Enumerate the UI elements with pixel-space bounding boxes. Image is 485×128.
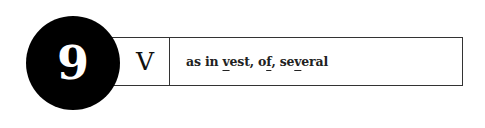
example-text: as in vest , of , several — [186, 38, 328, 85]
number-badge: 9 — [26, 16, 120, 110]
example-word-vest: vest — [222, 54, 249, 69]
example-word-several: several — [280, 54, 328, 69]
separator: , — [271, 54, 279, 69]
phonics-row: V as in vest , of , several — [100, 37, 463, 86]
letter-cell: V — [121, 38, 170, 85]
letter: V — [136, 47, 154, 76]
separator: , — [250, 54, 258, 69]
example-prefix: as in — [186, 54, 222, 69]
example-word-of: of — [258, 54, 271, 69]
badge-number: 9 — [57, 36, 89, 90]
